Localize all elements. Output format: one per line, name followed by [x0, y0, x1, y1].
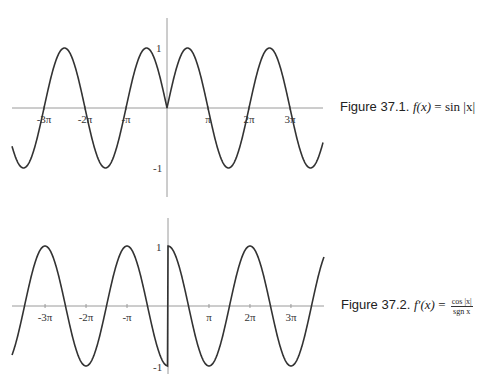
fraction-numerator: cos |x| [451, 297, 473, 307]
y-tick-neg1: -1 [153, 361, 162, 373]
formula-lhs: f′(x) [414, 297, 435, 312]
y-tick-neg1: -1 [153, 162, 162, 174]
chart-sin-abs-x: -3π-2π-ππ2π3π 1 -1 [12, 18, 323, 197]
x-tick-label: 2π [244, 311, 256, 323]
x-tick-label: -π [122, 311, 132, 323]
x-tick-label: -3π [38, 311, 53, 323]
x-tick-label: 3π [285, 311, 297, 323]
y-tick-1: 1 [156, 241, 162, 253]
x-tick-label: π [206, 311, 212, 323]
x-tick-label: -2π [79, 311, 94, 323]
y-tick-1: 1 [156, 42, 162, 54]
formula-fraction: cos |x|sgn x [451, 297, 473, 316]
caption-figure-37-1: Figure 37.1. f(x) = sin |x| [340, 99, 475, 115]
x-tick-label: -2π [78, 113, 93, 125]
chart-derivative: -3π-2π-ππ2π3π 1 -1 [12, 218, 324, 374]
formula-lhs: f(x) [413, 99, 431, 114]
formula-eq: = [435, 297, 449, 312]
fraction-denominator: sgn x [451, 307, 473, 316]
caption-figure-37-2: Figure 37.2. f′(x) = cos |x|sgn x [341, 297, 473, 316]
formula-eq: = [431, 99, 445, 114]
x-tick-label: 3π [284, 113, 296, 125]
formula-rhs: sin |x| [445, 99, 475, 114]
caption-label: Figure 37.2. [341, 297, 410, 312]
x-tick-label: -3π [37, 113, 52, 125]
caption-formula: f(x) = sin |x| [413, 99, 475, 114]
caption-formula: f′(x) = cos |x|sgn x [414, 297, 473, 312]
caption-label: Figure 37.1. [340, 99, 409, 114]
figure-canvas: -3π-2π-ππ2π3π 1 -1 -3π-2π-ππ2π3π 1 -1 [0, 0, 478, 374]
